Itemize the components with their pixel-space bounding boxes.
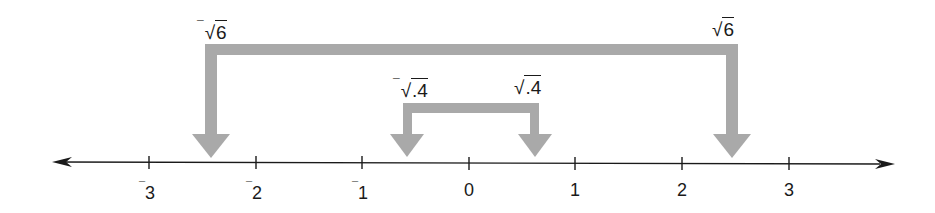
outer-left-arrowhead [192, 134, 230, 158]
tick-label-neg1: ¯1 [352, 181, 368, 202]
radicand: 6 [722, 17, 734, 40]
outer-right-arrowhead [713, 134, 751, 158]
inner-right-arrowhead [518, 134, 552, 157]
tick-label-2: 2 [677, 181, 687, 199]
outer-left-label: ¯√6 [197, 20, 227, 42]
radical-icon: √ [514, 77, 524, 98]
radicand: .4 [411, 78, 428, 101]
inner-left-arrowhead [390, 134, 424, 157]
tick-label-neg2: ¯2 [246, 181, 262, 202]
tick-label-neg3: ¯3 [139, 181, 155, 202]
outer-right-label: √6 [712, 20, 734, 39]
tick-label-0: 0 [464, 181, 474, 199]
radical-icon: √ [205, 22, 215, 43]
negative-sign: ¯ [197, 19, 204, 33]
inner-left-label: ¯√.4 [393, 78, 428, 100]
radical-icon: √ [712, 19, 722, 40]
tick-label-1: 1 [570, 181, 580, 199]
radical-icon: √ [401, 80, 411, 101]
inner-right-label: √.4 [514, 78, 541, 97]
negative-sign: ¯ [393, 77, 400, 91]
number-line-axis [52, 156, 895, 170]
tick-label-3: 3 [784, 181, 794, 199]
outer-bracket [192, 44, 751, 158]
radicand: 6 [215, 20, 227, 43]
inner-bracket [390, 103, 552, 157]
radicand: .4 [524, 75, 541, 98]
